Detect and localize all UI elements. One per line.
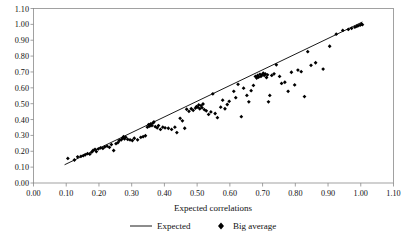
y-tick-label: 0.50: [15, 100, 29, 109]
x-tick-label: 0.10: [59, 189, 73, 198]
x-tick-label: 0.00: [26, 189, 40, 198]
x-tick-label: 0.50: [190, 189, 204, 198]
y-tick-label: 0.70: [15, 68, 29, 77]
x-tick-label: 0.80: [288, 189, 302, 198]
y-tick-label: 0.20: [15, 147, 29, 156]
legend-label-expected: Expected: [157, 221, 191, 231]
x-axis-title: Expected correlations: [174, 203, 253, 213]
y-tick-label: 0.30: [15, 131, 29, 140]
y-tick-label: 0.40: [15, 116, 29, 125]
x-tick-label: 1.10: [386, 189, 400, 198]
legend-label-big-average: Big average: [233, 221, 276, 231]
y-tick-label: 0.90: [15, 36, 29, 45]
y-tick-label: 0.60: [15, 84, 29, 93]
chart-canvas: 0.000.100.200.300.400.500.600.700.800.90…: [0, 0, 406, 238]
x-tick-label: 0.60: [223, 189, 237, 198]
x-tick-label: 0.90: [321, 189, 335, 198]
y-tick-label: 1.00: [15, 20, 29, 29]
y-tick-label: 0.00: [15, 179, 29, 188]
y-tick-label: 0.80: [15, 52, 29, 61]
scatter-chart: 0.000.100.200.300.400.500.600.700.800.90…: [0, 0, 406, 238]
x-tick-label: 0.20: [92, 189, 106, 198]
x-tick-label: 1.00: [354, 189, 368, 198]
y-tick-label: 0.10: [15, 163, 29, 172]
x-tick-label: 0.70: [255, 189, 269, 198]
x-tick-label: 0.30: [125, 189, 139, 198]
x-tick-label: 0.40: [157, 189, 171, 198]
y-tick-label: 1.10: [15, 5, 29, 14]
